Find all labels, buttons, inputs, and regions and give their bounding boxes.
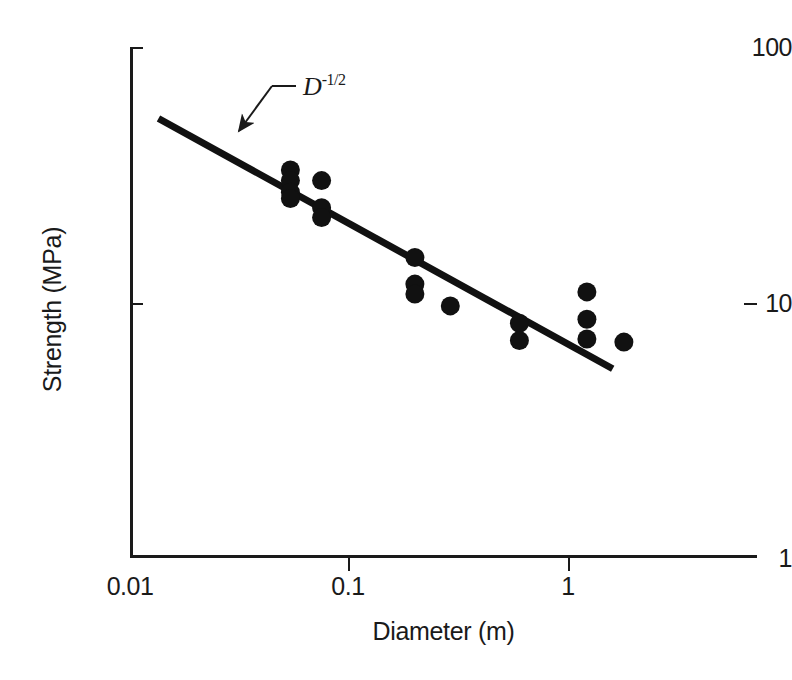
y-tick-100 (130, 47, 143, 49)
y-tick-10 (130, 303, 143, 305)
figure-canvas: 100 10 1 0.01 0.1 1 Diameter (m) Strengt… (0, 0, 792, 680)
y-tick-label-10: 10 (682, 291, 792, 316)
trendline-annotation-label: D-1/2 (303, 71, 346, 102)
annotation-exponent: -1/2 (322, 71, 346, 88)
x-tick-label-1: 1 (498, 571, 638, 601)
y-tick-label-1: 1 (682, 546, 792, 571)
x-tick-label-0.01: 0.01 (60, 571, 200, 601)
y-axis-title: Strength (MPa) (38, 54, 67, 565)
x-tick-1 (568, 558, 570, 571)
x-axis-title: Diameter (m) (130, 617, 757, 646)
y-tick-label-100: 100 (682, 35, 792, 60)
plot-axes-frame (130, 47, 757, 558)
x-tick-label-0.1: 0.1 (278, 571, 418, 601)
annotation-base: D (303, 72, 322, 101)
x-tick-0.1 (348, 558, 350, 571)
